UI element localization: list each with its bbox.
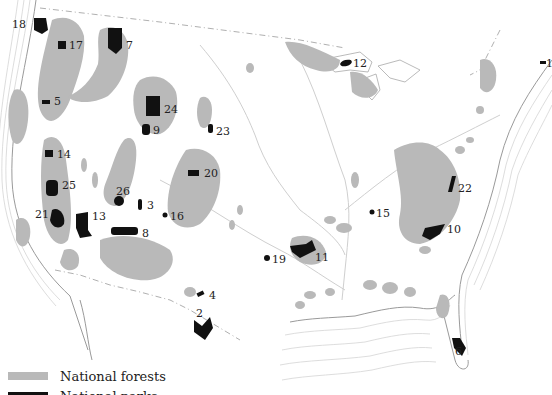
park-label-18: 18 bbox=[12, 19, 26, 30]
legend-label-parks: National parks bbox=[60, 389, 158, 395]
national-forests bbox=[8, 18, 496, 319]
lake-huron bbox=[378, 60, 420, 82]
park-label-5: 5 bbox=[54, 96, 61, 107]
mexico-border bbox=[55, 270, 240, 340]
park-label-1: 1 bbox=[546, 58, 552, 69]
legend-item-parks: National parks bbox=[8, 386, 166, 395]
forest-swatch bbox=[8, 372, 48, 380]
park-label-3: 3 bbox=[147, 200, 154, 211]
park-label-11: 11 bbox=[315, 252, 329, 263]
park-label-22: 22 bbox=[458, 183, 472, 194]
park-label-17: 17 bbox=[69, 40, 83, 51]
park-label-14: 14 bbox=[57, 149, 71, 160]
us-national-lands-map: 1 2 3 4 5 6 7 8 9 10 11 12 13 14 15 16 1… bbox=[0, 0, 552, 395]
park-label-9: 9 bbox=[153, 125, 160, 136]
park-label-20: 20 bbox=[204, 168, 218, 179]
park-label-8: 8 bbox=[142, 228, 149, 239]
park-label-15: 15 bbox=[376, 208, 390, 219]
park-label-2: 2 bbox=[196, 308, 203, 319]
canada-border bbox=[40, 8, 345, 48]
park-label-16: 16 bbox=[170, 211, 184, 222]
park-label-23: 23 bbox=[216, 126, 230, 137]
park-label-13: 13 bbox=[92, 211, 106, 222]
park-label-4: 4 bbox=[209, 290, 216, 301]
park-label-26: 26 bbox=[116, 186, 130, 197]
map-canvas bbox=[0, 0, 552, 395]
park-label-6: 6 bbox=[455, 346, 462, 357]
park-label-10: 10 bbox=[447, 224, 461, 235]
legend-item-forests: National forests bbox=[8, 366, 166, 386]
park-label-21: 21 bbox=[35, 209, 49, 220]
park-label-12: 12 bbox=[353, 58, 367, 69]
gulf-coast bbox=[280, 295, 455, 380]
park-label-24: 24 bbox=[164, 104, 178, 115]
atlantic-coast bbox=[459, 60, 552, 355]
legend-label-forests: National forests bbox=[60, 369, 166, 384]
park-label-25: 25 bbox=[62, 180, 76, 191]
park-label-19: 19 bbox=[272, 254, 286, 265]
legend: National forests National parks bbox=[8, 366, 166, 395]
park-label-7: 7 bbox=[126, 40, 133, 51]
